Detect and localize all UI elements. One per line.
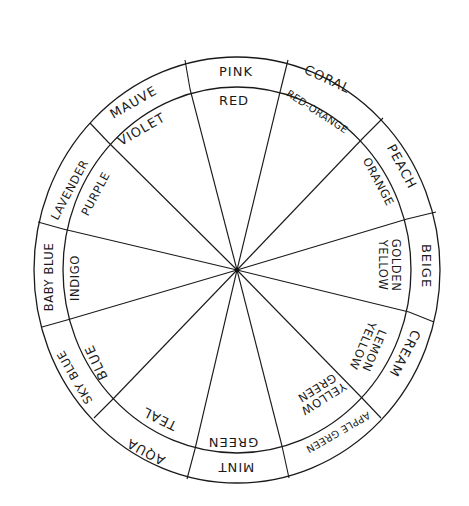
center-hub [235, 268, 239, 272]
divider-green-teal [187, 449, 195, 479]
hue-label-red: RED [219, 93, 249, 108]
spoke-yellowgreen-green [237, 270, 282, 446]
hue-label-teal: TEAL [140, 404, 180, 434]
hue-label-golden-yellow: GOLDENYELLOW [376, 239, 403, 292]
spoke-blue-indigo [67, 270, 237, 320]
divider-blue-indigo [42, 320, 67, 327]
spoke-lemon-yellowgreen [237, 270, 362, 398]
hue-label-blue: BLUE [81, 342, 110, 382]
spoke-green-teal [195, 270, 237, 449]
hue-label-line: INDIGO [68, 255, 82, 301]
hue-label-green: GREEN [208, 435, 258, 450]
spoke-teal-blue [113, 270, 237, 399]
tint-label-coral: CORAL [302, 62, 353, 96]
divider-yellowgreen-green [282, 446, 289, 478]
divider-redorange-orange [364, 118, 383, 137]
divider-purple-violet [90, 123, 108, 142]
divider-goldenyellow-lemon [409, 312, 434, 322]
spoke-redorange-orange [237, 137, 364, 270]
hue-label-line: TEAL [140, 404, 180, 434]
hue-label-line: RED [219, 93, 249, 108]
spoke-purple-violet [108, 142, 237, 270]
hue-label-line: BLUE [81, 342, 110, 382]
color-wheel: REDPINKRED-ORANGECORALORANGEPEACHGOLDENY… [0, 0, 469, 506]
divider-orange-goldenyellow [407, 212, 436, 219]
tint-label-apple-green: APPLE GREEN [304, 410, 372, 456]
divider-indigo-purple [38, 222, 63, 229]
tint-label-aqua: AQUA [124, 436, 168, 469]
spoke-indigo-purple [63, 229, 237, 270]
spoke-violet-red [190, 89, 237, 270]
hue-label-line: GREEN [208, 435, 258, 450]
divider-teal-blue [94, 399, 113, 418]
hue-label-red-orange: RED-ORANGE [285, 88, 350, 136]
tint-label-baby-blue: BABY BLUE [42, 243, 56, 312]
hue-label-line: YELLOW [376, 239, 390, 291]
tint-label-pink: PINK [219, 64, 253, 79]
tint-label-mint: MINT [218, 460, 255, 475]
hue-label-indigo: INDIGO [68, 255, 82, 301]
divider-violet-red [185, 60, 190, 89]
divider-red-redorange [281, 60, 288, 88]
hue-label-line: RED-ORANGE [285, 88, 350, 136]
spoke-red-redorange [237, 88, 281, 270]
tint-label-beige: BEIGE [419, 244, 434, 288]
